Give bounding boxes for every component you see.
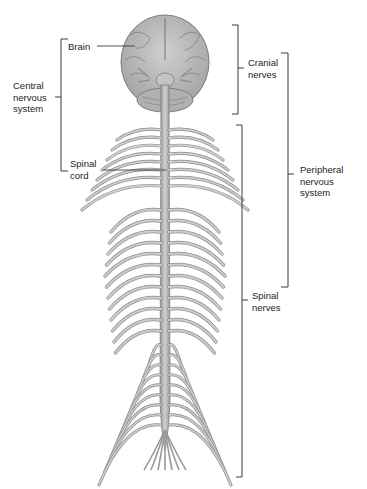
label-peripheral-nervous-system: Peripheral nervous system — [300, 164, 343, 199]
label-spinal-cord-line2: cord — [70, 170, 96, 182]
label-cranial-line1: Cranial — [248, 57, 278, 69]
label-central-nervous-system: Central nervous system — [13, 80, 47, 115]
label-spinal-nerves-line2: nerves — [252, 302, 281, 314]
label-pns-line2: nervous — [300, 176, 343, 188]
label-spinal-nerves-line1: Spinal — [252, 290, 281, 302]
bracket-cranial-nerves — [232, 25, 244, 114]
label-cns-line1: Central — [13, 80, 47, 92]
nervous-system-illustration — [0, 0, 367, 489]
bracket-spinal-nerves — [236, 125, 248, 477]
bracket-central-nervous-system — [55, 39, 68, 171]
label-brain: Brain — [68, 41, 90, 53]
label-cranial-line2: nerves — [248, 69, 278, 81]
label-pns-line1: Peripheral — [300, 164, 343, 176]
label-brain-text: Brain — [68, 41, 90, 52]
label-spinal-nerves: Spinal nerves — [252, 290, 281, 313]
label-cranial-nerves: Cranial nerves — [248, 57, 278, 80]
label-cns-line2: nervous — [13, 92, 47, 104]
label-pns-line3: system — [300, 187, 343, 199]
label-cns-line3: system — [13, 103, 47, 115]
label-spinal-cord-line1: Spinal — [70, 158, 96, 170]
bracket-peripheral-nervous-system — [281, 53, 294, 287]
label-spinal-cord: Spinal cord — [70, 158, 96, 181]
